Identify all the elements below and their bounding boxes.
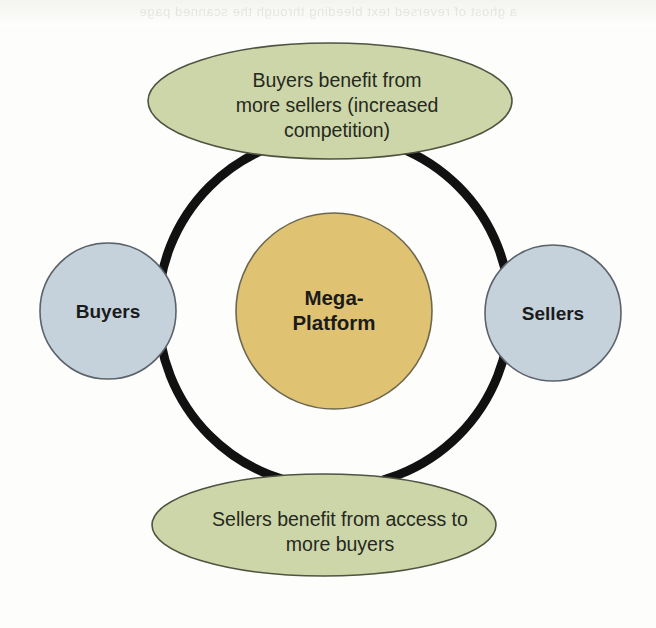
node-sellers-benefit[interactable]: Sellers benefit from access to more buye… <box>152 474 496 576</box>
diagram-svg: Mega- Platform Buyers Sellers Buyers ben… <box>0 0 656 628</box>
node-buyers[interactable]: Buyers <box>40 243 176 379</box>
sellers-benefit-line2: more buyers <box>286 533 395 555</box>
buyers-benefit-line2: more sellers (increased <box>236 94 439 116</box>
buyers-benefit-line1: Buyers benefit from <box>252 69 421 91</box>
mega-platform-label-line1: Mega- <box>304 286 363 309</box>
buyers-benefit-line3: competition) <box>284 119 390 141</box>
sellers-benefit-line1: Sellers benefit from access to <box>212 508 468 530</box>
buyers-label: Buyers <box>76 301 140 322</box>
diagram-canvas: a ghost of reversed text bleeding throug… <box>0 0 656 628</box>
sellers-label: Sellers <box>522 303 584 324</box>
node-sellers[interactable]: Sellers <box>485 245 621 381</box>
mega-platform-label-line2: Platform <box>292 311 375 334</box>
node-buyers-benefit[interactable]: Buyers benefit from more sellers (increa… <box>148 43 512 159</box>
node-mega-platform[interactable]: Mega- Platform <box>236 213 432 409</box>
